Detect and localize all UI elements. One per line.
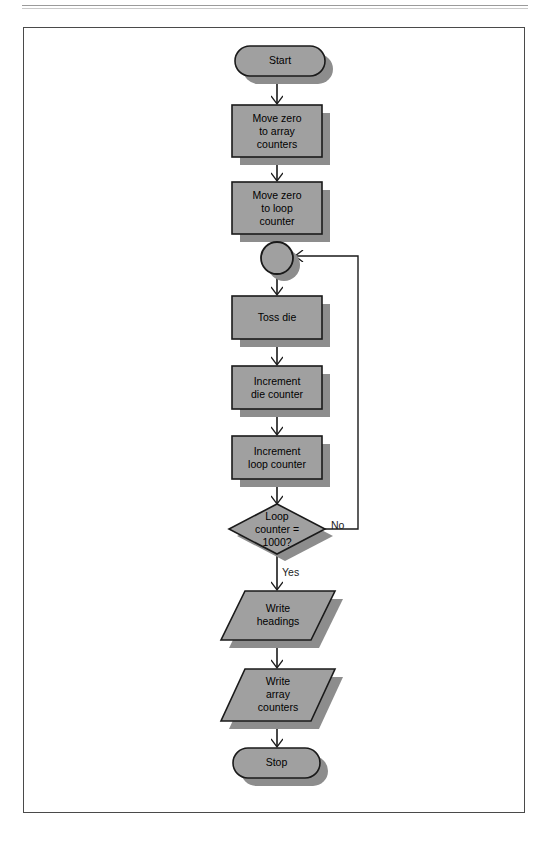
edge-label-yes: Yes bbox=[282, 566, 299, 578]
node-move-zero-array[interactable] bbox=[232, 105, 330, 165]
edge-label-no: No bbox=[331, 519, 344, 531]
flowchart-canvas bbox=[0, 0, 549, 843]
node-toss-die[interactable] bbox=[232, 296, 330, 347]
node-write-headings[interactable] bbox=[221, 591, 343, 648]
flowchart-page: Start Move zero to array counters Move z… bbox=[0, 0, 549, 843]
node-write-array-counters[interactable] bbox=[221, 669, 343, 729]
node-loop-decision[interactable] bbox=[229, 504, 333, 561]
node-increment-loop[interactable] bbox=[232, 436, 330, 487]
node-start[interactable] bbox=[235, 46, 333, 84]
node-stop[interactable] bbox=[233, 748, 328, 786]
node-increment-die[interactable] bbox=[232, 366, 330, 417]
node-connector[interactable] bbox=[261, 242, 300, 281]
node-move-zero-loop[interactable] bbox=[232, 182, 330, 242]
